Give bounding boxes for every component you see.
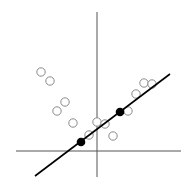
- scatter-diagram: [0, 0, 190, 193]
- filled-point: [77, 138, 86, 147]
- hollow-point: [93, 118, 101, 126]
- hollow-point: [69, 119, 77, 127]
- hollow-point: [53, 107, 61, 115]
- hollow-point: [140, 79, 148, 87]
- regression-line: [35, 74, 170, 176]
- hollow-point: [61, 98, 69, 106]
- filled-point: [116, 108, 125, 117]
- hollow-point: [109, 132, 117, 140]
- hollow-point: [37, 68, 45, 76]
- hollow-point: [46, 77, 54, 85]
